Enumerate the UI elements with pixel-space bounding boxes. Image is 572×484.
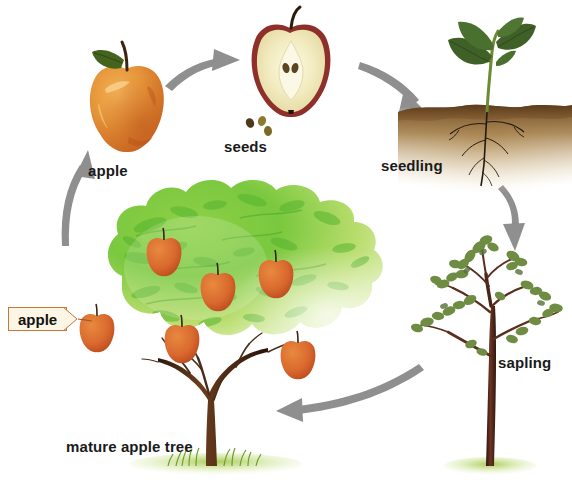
arrow-seedling-to-sapling [498,185,525,251]
canopy-apple-left [80,304,115,352]
callout-label-apple: apple [18,312,57,327]
apple-life-cycle-diagram: apple seeds seedling sapling mature appl… [0,0,572,484]
callout-box-apple: apple [8,307,67,331]
stage-label-sapling: sapling [498,355,551,370]
callout-pointer-icon [63,307,79,331]
stage-label-apple: apple [88,163,128,178]
arrow-seeds-to-seedling [358,62,427,116]
mature-apple-tree-icon [80,180,410,475]
apple-halved-with-seeds-icon [244,7,330,137]
arrow-apple-to-seeds [165,49,240,91]
apple-fruit-icon [90,42,164,152]
stage-label-seedling: seedling [381,158,443,173]
stage-label-seeds: seeds [224,139,267,154]
canopy-apple-bottom-right [281,331,316,379]
life-cycle-illustration [0,0,572,484]
stage-label-mature-apple-tree: mature apple tree [66,439,193,454]
